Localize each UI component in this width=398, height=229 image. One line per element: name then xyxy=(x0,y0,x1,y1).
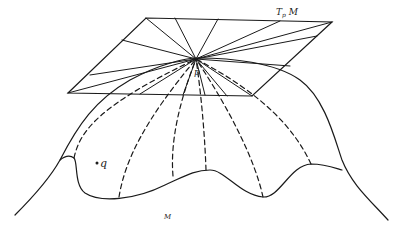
tangent-plane-label-M: M xyxy=(289,7,298,17)
point-p-label: p xyxy=(194,68,200,77)
tangent-plane-label: Tp M xyxy=(276,8,298,18)
point-q-dot xyxy=(96,162,98,164)
tangent-plane-label-sub: p xyxy=(282,11,286,18)
tangent-plane-diagram xyxy=(0,0,398,229)
manifold-label: M xyxy=(164,214,171,221)
point-q-label: q xyxy=(100,158,107,169)
